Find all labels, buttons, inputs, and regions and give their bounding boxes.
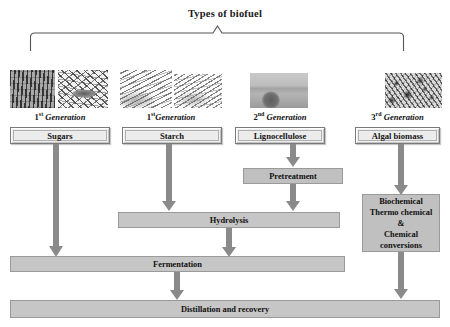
generation-label-3: 2nd Generation <box>235 111 325 122</box>
generation-word: Generation <box>155 112 195 122</box>
process-bar-hydrolysis[interactable]: Hydrolysis <box>118 212 340 228</box>
feedstock-box-inner: Lignocellulose <box>238 130 322 141</box>
generation-suffix: rd <box>376 111 382 117</box>
arrow-algal-to-conversions <box>394 144 408 200</box>
biofuel-types-flow-diagram: Types of biofuel 1st Generation Sugars 1… <box>0 0 450 327</box>
generation-label-1: 1st Generation <box>10 111 110 122</box>
photo-sugarbeet <box>58 70 108 108</box>
bracket-svg <box>28 26 408 52</box>
photo-hay-bale <box>250 73 308 108</box>
distillation-label: Distillation and recovery <box>181 304 269 315</box>
arrow-starch-to-hydrolysis <box>162 144 176 216</box>
photo-wheat-left <box>120 70 172 108</box>
generation-suffix: nd <box>258 111 265 117</box>
arrow-sugars-to-fermentation <box>49 144 63 262</box>
feedstock-box-inner: Starch <box>125 130 219 141</box>
arrow-conversions-to-distillation <box>394 252 408 304</box>
feedstock-box-algal-biomass[interactable]: Algal biomass <box>355 127 440 144</box>
conversions-line-4: Chemical <box>384 229 418 240</box>
generation-word: Generation <box>45 112 85 122</box>
pretreatment-label: Pretreatment <box>269 171 317 182</box>
process-bar-distillation-and-recovery[interactable]: Distillation and recovery <box>10 300 440 318</box>
feedstock-label-algal-biomass: Algal biomass <box>372 131 423 141</box>
fermentation-label: Fermentation <box>153 259 202 270</box>
arrow-svg <box>162 144 176 212</box>
feedstock-box-inner: Algal biomass <box>358 130 437 141</box>
generation-suffix: st <box>39 111 43 117</box>
generation-word: Generation <box>267 112 307 122</box>
hydrolysis-label: Hydrolysis <box>210 215 248 226</box>
feedstock-label-sugars: Sugars <box>47 131 72 141</box>
conversions-line-2: Thermo chemical <box>370 207 433 218</box>
photo-algae <box>385 73 442 108</box>
feedstock-label-starch: Starch <box>160 131 184 141</box>
process-box-pretreatment[interactable]: Pretreatment <box>243 168 343 184</box>
generation-word: Generation <box>384 112 424 122</box>
arrow-svg <box>394 252 408 300</box>
diagram-title: Types of biofuel <box>0 8 450 19</box>
feedstock-box-inner: Sugars <box>13 130 107 141</box>
process-bar-fermentation[interactable]: Fermentation <box>10 256 345 272</box>
arrow-svg <box>49 144 63 258</box>
arrow-svg <box>222 228 236 258</box>
arrow-svg <box>170 272 184 301</box>
arrow-svg <box>286 144 300 168</box>
arrow-svg <box>286 184 300 212</box>
photo-sugarcane <box>10 70 55 108</box>
process-box-conversions[interactable]: Biochemical Thermo chemical & Chemical c… <box>362 194 440 252</box>
conversions-line-3: & <box>398 218 405 229</box>
photo-wheat-right <box>174 74 222 108</box>
conversions-line-1: Biochemical <box>379 196 423 207</box>
generation-grouping-bracket <box>28 26 408 56</box>
feedstock-box-sugars[interactable]: Sugars <box>10 127 110 144</box>
feedstock-box-lignocellulose[interactable]: Lignocellulose <box>235 127 325 144</box>
feedstock-box-starch[interactable]: Starch <box>122 127 222 144</box>
generation-label-4: 3rd Generation <box>355 111 440 122</box>
arrow-svg <box>394 144 408 196</box>
generation-label-2: 1stGeneration <box>118 111 224 122</box>
feedstock-label-lignocellulose: Lignocellulose <box>254 131 307 141</box>
conversions-line-5: conversions <box>380 240 422 251</box>
